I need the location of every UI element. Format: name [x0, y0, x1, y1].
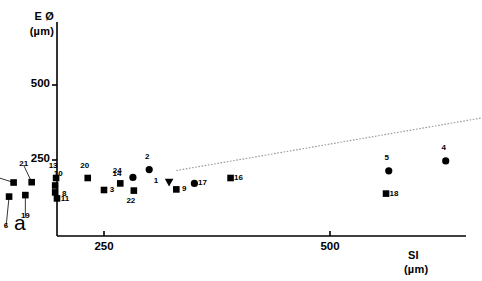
data-point-14: [129, 174, 136, 181]
scatter-plot-figure: 2505002505007501000E Ø(µm)SI(µm)12345678…: [0, 0, 482, 281]
data-point-5: [385, 167, 392, 174]
data-point-label-6: 6: [0, 222, 13, 230]
data-point-label-3: 3: [105, 186, 119, 194]
data-point-label-24: 24: [110, 167, 124, 175]
x-tick-label-250: 250: [78, 240, 130, 252]
data-point-6: [6, 193, 13, 200]
data-point-label-17: 17: [195, 179, 209, 187]
y-tick-label-500: 500: [0, 77, 50, 89]
data-point-label-18: 18: [387, 190, 401, 198]
data-point-10: [52, 182, 59, 189]
data-point-19: [22, 192, 29, 199]
data-point-label-20: 20: [78, 162, 92, 170]
data-point-1: [165, 179, 174, 187]
x-tick-label-500: 500: [304, 240, 356, 252]
data-point-label-11: 11: [58, 195, 72, 203]
data-point-label-5: 5: [380, 154, 394, 162]
y-axis-title-line2: (µm): [2, 26, 54, 38]
data-point-label-21: 21: [17, 160, 31, 168]
data-point-label-2: 2: [140, 153, 154, 161]
data-point-label-9: 9: [177, 185, 191, 193]
data-point-label-10: 10: [51, 170, 65, 178]
x-axis-title-line2: (µm): [404, 264, 456, 276]
data-point-label-22: 22: [124, 197, 138, 205]
data-point-4: [442, 157, 449, 164]
data-point-22: [131, 187, 138, 194]
data-point-label-16: 16: [232, 174, 246, 182]
y-axis-title-line1: E Ø: [6, 11, 54, 23]
data-point-label-4: 4: [437, 144, 451, 152]
data-point-label-1: 1: [149, 177, 163, 185]
data-point-20: [84, 175, 91, 182]
plot-canvas: [0, 0, 482, 281]
data-point-12: [10, 179, 17, 186]
data-point-21: [28, 179, 35, 186]
data-point-label-13: 13: [46, 162, 60, 170]
panel-label: a: [14, 212, 26, 234]
data-point-2: [146, 166, 153, 173]
x-axis-title-line1: SI: [408, 250, 448, 262]
